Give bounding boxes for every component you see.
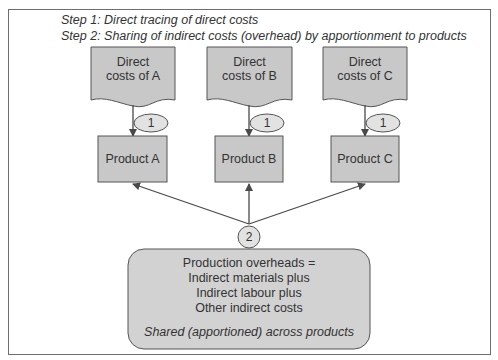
direct-costs-a: Direct costs of A	[91, 55, 175, 83]
step1-marker-b: 1	[250, 116, 284, 130]
direct-costs-c-line1: Direct	[323, 55, 407, 69]
direct-costs-a-line1: Direct	[91, 55, 175, 69]
direct-costs-b-line1: Direct	[207, 55, 292, 69]
direct-costs-a-line2: costs of A	[91, 69, 175, 83]
product-c: Product C	[331, 152, 399, 166]
step2-marker: 2	[238, 230, 260, 244]
step1-marker-c: 1	[366, 116, 400, 130]
direct-costs-b-line2: costs of B	[207, 69, 292, 83]
overheads-line-4: Other indirect costs	[128, 301, 370, 316]
overheads-line-3: Indirect labour plus	[128, 286, 370, 301]
product-b: Product B	[215, 152, 283, 166]
overheads-note: Shared (apportioned) across products	[128, 325, 370, 340]
direct-costs-c-line2: costs of C	[323, 69, 407, 83]
direct-costs-b: Direct costs of B	[207, 55, 292, 83]
overheads-line-1: Production overheads =	[128, 256, 370, 271]
product-a: Product A	[98, 152, 167, 166]
overheads-line-2: Indirect materials plus	[128, 271, 370, 286]
step1-marker-a: 1	[134, 116, 168, 130]
direct-costs-c: Direct costs of C	[323, 55, 407, 83]
